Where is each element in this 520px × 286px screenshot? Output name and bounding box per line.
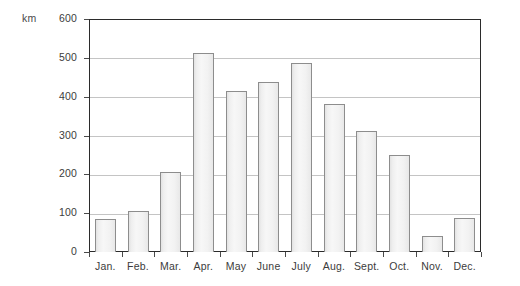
y-axis-tick-label: 0 [33, 245, 77, 257]
x-axis-tick [416, 252, 417, 257]
bar [389, 155, 410, 252]
x-axis-tick [448, 252, 449, 257]
x-axis-tick [122, 252, 123, 257]
x-axis-tick-label: May [220, 260, 253, 272]
bar [258, 82, 279, 252]
y-axis-tick-label: 300 [33, 129, 77, 141]
x-axis-tick-label: Oct. [383, 260, 416, 272]
x-axis-tick [154, 252, 155, 257]
x-axis-tick [481, 252, 482, 257]
x-axis-tick-label: Aug. [318, 260, 351, 272]
y-axis-tick-label: 100 [33, 206, 77, 218]
x-axis-tick [220, 252, 221, 257]
y-axis-tick-label: 200 [33, 167, 77, 179]
x-axis-tick-label: Jan. [89, 260, 122, 272]
x-axis-tick-label: June [252, 260, 285, 272]
bar [128, 211, 149, 252]
y-axis-tick-label: 500 [33, 51, 77, 63]
x-axis-tick [89, 252, 90, 257]
bar [324, 104, 345, 252]
bar [291, 63, 312, 252]
x-axis-tick-label: Sept. [350, 260, 383, 272]
x-axis-tick [383, 252, 384, 257]
x-axis-tick-label: Feb. [122, 260, 155, 272]
x-axis-tick [350, 252, 351, 257]
x-axis-tick [318, 252, 319, 257]
x-axis-tick-label: July [285, 260, 318, 272]
bar [160, 172, 181, 252]
x-axis-tick-label: Mar. [154, 260, 187, 272]
x-axis-tick [252, 252, 253, 257]
x-axis-tick-label: Dec. [448, 260, 481, 272]
y-axis-tick-label: 400 [33, 90, 77, 102]
y-axis-tick-label: 600 [33, 12, 77, 24]
bar [193, 53, 214, 252]
x-axis-tick-label: Nov. [416, 260, 449, 272]
bar [95, 219, 116, 252]
bar [422, 236, 443, 252]
bar [356, 131, 377, 252]
bar-chart-figure: km 0100200300400500600 Jan.Feb.Mar.Apr.M… [0, 0, 520, 286]
x-axis-tick [187, 252, 188, 257]
bar [226, 91, 247, 252]
x-axis-tick [285, 252, 286, 257]
bar [454, 218, 475, 252]
x-axis-tick-label: Apr. [187, 260, 220, 272]
bars-layer [89, 19, 481, 252]
